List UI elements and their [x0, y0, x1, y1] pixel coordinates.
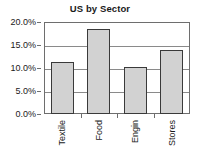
bar-stores [160, 50, 183, 114]
bar-textile [51, 62, 74, 114]
x-category-label-engin: Engin [131, 120, 140, 143]
y-tick-label: 10.0% [10, 64, 36, 73]
y-axis: 0.0%5.0%10.0%15.0%20.0% [0, 22, 41, 114]
y-tick-mark [37, 22, 41, 23]
x-tick-mark [154, 114, 155, 118]
x-category-label-textile: Textile [58, 120, 67, 146]
x-tick-mark [81, 114, 82, 118]
y-tick-mark [37, 45, 41, 46]
x-category-label-stores: Stores [167, 120, 176, 146]
bar-engin [124, 67, 147, 114]
chart-title: US by Sector [0, 3, 200, 14]
bar-food [87, 29, 110, 114]
y-tick-label: 5.0% [15, 87, 36, 96]
bars-layer [44, 22, 190, 114]
bar-chart: US by Sector 0.0%5.0%10.0%15.0%20.0% Tex… [0, 0, 200, 166]
y-tick-label: 15.0% [10, 41, 36, 50]
x-category-label-food: Food [94, 120, 103, 141]
y-tick-mark [37, 114, 41, 115]
y-tick-mark [37, 68, 41, 69]
x-axis: TextileFoodEnginStores [44, 114, 190, 166]
x-tick-mark [117, 114, 118, 118]
y-tick-mark [37, 91, 41, 92]
y-tick-label: 20.0% [10, 18, 36, 27]
y-tick-label: 0.0% [15, 110, 36, 119]
